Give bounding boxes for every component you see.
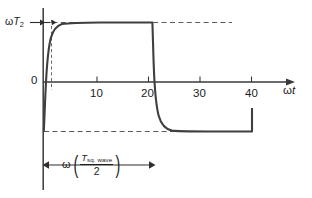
x-axis-label-var: t [292, 84, 295, 96]
y-level-omega: ω [5, 15, 13, 27]
waveform-plot [0, 0, 312, 198]
period-numerator-subscript: sq. wave [87, 156, 112, 163]
figure-container: ωT2 0 10 20 30 40 ωt ω ( Tsq. wave 2 ) [0, 0, 312, 198]
x-tick-label-20: 20 [141, 88, 154, 100]
y-level-label: ωT2 [5, 16, 24, 29]
period-denominator: 2 [94, 165, 100, 177]
period-label: ω ( Tsq. wave 2 ) [62, 153, 122, 177]
response-curve [44, 23, 252, 132]
x-axis-label-omega: ω [283, 84, 292, 96]
origin-label: 0 [31, 75, 37, 87]
period-bracket-arrow-right [149, 161, 156, 168]
y-level-subscript: 2 [20, 20, 24, 29]
x-tick-label-10: 10 [90, 88, 103, 100]
x-tick-label-40: 40 [245, 88, 258, 100]
period-fraction: Tsq. wave 2 [80, 153, 113, 177]
period-paren-open: ( [73, 156, 78, 175]
time-constant-arrowhead [52, 20, 57, 26]
period-omega: ω [62, 159, 71, 170]
x-tick-label-30: 30 [193, 88, 206, 100]
period-paren-close: ) [116, 156, 121, 175]
period-numerator: Tsq. wave [80, 153, 113, 164]
x-axis-label: ωt [283, 85, 295, 97]
